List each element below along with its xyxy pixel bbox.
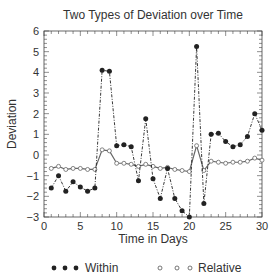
within-point xyxy=(143,116,148,121)
plot-series xyxy=(49,44,265,220)
within-point xyxy=(260,128,265,133)
relative-point xyxy=(224,161,228,165)
relative-point xyxy=(122,161,126,165)
within-point xyxy=(85,189,90,194)
y-tick-label: −3 xyxy=(26,211,39,223)
within-point xyxy=(129,144,134,149)
within-point xyxy=(165,166,170,171)
within-point xyxy=(201,201,206,206)
x-tick-label: 0 xyxy=(41,220,47,232)
within-point xyxy=(230,144,235,149)
relative-line xyxy=(51,146,262,172)
chart-title: Two Types of Deviation over Time xyxy=(63,8,243,22)
relative-point xyxy=(158,166,162,170)
relative-point xyxy=(187,170,191,174)
within-point xyxy=(252,111,257,116)
y-tick-label: −2 xyxy=(26,190,39,202)
within-point xyxy=(223,139,228,144)
relative-point xyxy=(216,160,220,164)
y-tick-label: 1 xyxy=(33,128,39,140)
x-tick-label: 10 xyxy=(111,220,123,232)
legend-within-label: Within xyxy=(85,261,118,275)
relative-point xyxy=(231,160,235,164)
x-tick-label: 30 xyxy=(256,220,268,232)
relative-point xyxy=(64,167,68,171)
legend-relative-markers xyxy=(158,266,192,270)
relative-point xyxy=(144,162,148,166)
within-point xyxy=(100,68,105,73)
within-line xyxy=(51,47,262,218)
y-tick-label: −1 xyxy=(26,170,39,182)
relative-point xyxy=(238,160,242,164)
within-point xyxy=(56,173,61,178)
plot-axes: 051015202530−3−2−10123456 xyxy=(26,25,268,232)
relative-point xyxy=(115,161,119,165)
relative-point xyxy=(129,162,133,166)
y-tick-label: 5 xyxy=(33,46,39,58)
x-tick-label: 5 xyxy=(77,220,83,232)
legend: Within Relative xyxy=(52,261,242,275)
x-tick-label: 25 xyxy=(220,220,232,232)
x-tick-label: 15 xyxy=(147,220,159,232)
plot-frame xyxy=(44,31,262,217)
within-point xyxy=(216,131,221,136)
y-tick-label: 2 xyxy=(33,108,39,120)
within-point xyxy=(49,186,54,191)
relative-point xyxy=(86,167,90,171)
relative-point xyxy=(195,144,199,148)
relative-point xyxy=(49,166,53,170)
relative-point xyxy=(253,156,257,160)
within-point xyxy=(121,142,126,147)
within-point xyxy=(209,132,214,137)
within-point xyxy=(238,142,243,147)
within-point xyxy=(78,185,83,190)
within-point xyxy=(151,176,156,181)
relative-point xyxy=(100,148,104,152)
y-tick-label: 0 xyxy=(33,149,39,161)
deviation-chart: Two Types of Deviation over Time 0510152… xyxy=(0,0,275,280)
within-point xyxy=(187,215,192,220)
relative-point xyxy=(57,164,61,168)
within-point xyxy=(180,208,185,213)
within-point xyxy=(92,186,97,191)
within-point xyxy=(245,134,250,139)
y-tick-label: 4 xyxy=(33,66,39,78)
x-axis-label: Time in Days xyxy=(118,232,188,246)
within-point xyxy=(158,196,163,201)
y-tick-label: 3 xyxy=(33,87,39,99)
x-tick-label: 20 xyxy=(183,220,195,232)
legend-relative-label: Relative xyxy=(198,261,242,275)
relative-point xyxy=(260,158,264,162)
within-point xyxy=(71,179,76,184)
y-axis-label: Deviation xyxy=(5,99,19,149)
relative-point xyxy=(173,167,177,171)
legend-within-markers xyxy=(52,266,79,271)
within-point xyxy=(63,189,68,194)
relative-point xyxy=(209,159,213,163)
relative-point xyxy=(107,149,111,153)
relative-point xyxy=(78,166,82,170)
relative-point xyxy=(245,159,249,163)
relative-point xyxy=(71,166,75,170)
within-point xyxy=(194,44,199,49)
within-point xyxy=(136,178,141,183)
within-point xyxy=(114,143,119,148)
within-point xyxy=(172,196,177,201)
relative-point xyxy=(180,169,184,173)
within-point xyxy=(107,69,112,74)
y-tick-label: 6 xyxy=(33,25,39,37)
